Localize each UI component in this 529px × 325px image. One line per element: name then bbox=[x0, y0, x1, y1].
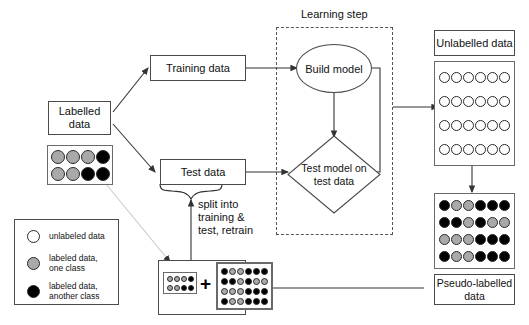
data-point-white bbox=[487, 144, 498, 155]
data-point-black bbox=[221, 268, 228, 275]
data-point-white bbox=[463, 96, 474, 107]
legend-item-0: unlabeled data bbox=[27, 230, 119, 243]
data-point-black bbox=[499, 234, 510, 245]
class-two-dot-icon bbox=[27, 285, 40, 298]
node-test-model-label: Test model on test data bbox=[287, 135, 381, 214]
data-point-white bbox=[475, 120, 486, 131]
node-training-data[interactable]: Training data bbox=[150, 55, 246, 81]
node-unlabelled-data[interactable]: Unlabelled data bbox=[434, 30, 515, 56]
data-point-gray bbox=[237, 268, 244, 275]
node-build-model[interactable]: Build model bbox=[296, 44, 372, 93]
grid-combined-large bbox=[216, 262, 273, 310]
legend-item-2: labeled data, another class bbox=[27, 281, 119, 301]
diagram-canvas: Learning step bbox=[0, 0, 529, 325]
data-point-black bbox=[487, 200, 498, 211]
data-point-black bbox=[181, 285, 187, 291]
data-point-white bbox=[475, 144, 486, 155]
data-point-gray bbox=[463, 217, 474, 228]
data-point-gray bbox=[66, 167, 80, 181]
data-point-black bbox=[245, 298, 252, 305]
data-point-black bbox=[499, 200, 510, 211]
grid-unlabelled-pool bbox=[434, 61, 515, 166]
data-point-white bbox=[439, 96, 450, 107]
grid-pseudo-labelled-pool bbox=[434, 193, 515, 269]
legend-item-1-label: labeled data, one class bbox=[49, 253, 98, 273]
node-test-model[interactable]: Test model on test data bbox=[287, 135, 381, 214]
data-point-white bbox=[463, 120, 474, 131]
data-point-gray bbox=[237, 278, 244, 285]
data-point-gray bbox=[181, 276, 187, 282]
data-point-black bbox=[475, 234, 486, 245]
data-point-gray bbox=[439, 234, 450, 245]
data-point-white bbox=[439, 120, 450, 131]
node-test-data[interactable]: Test data bbox=[160, 159, 246, 185]
data-point-gray bbox=[237, 288, 244, 295]
data-point-white bbox=[499, 120, 510, 131]
data-point-black bbox=[229, 278, 236, 285]
data-point-white bbox=[451, 72, 462, 83]
data-point-white bbox=[463, 72, 474, 83]
data-point-white bbox=[487, 72, 498, 83]
data-point-black bbox=[253, 268, 260, 275]
class-one-dot-icon bbox=[27, 257, 40, 270]
data-point-white bbox=[451, 144, 462, 155]
data-point-black bbox=[487, 234, 498, 245]
data-point-gray bbox=[167, 285, 173, 291]
data-point-black bbox=[253, 298, 260, 305]
data-point-gray bbox=[451, 200, 462, 211]
data-point-gray bbox=[66, 150, 80, 164]
data-point-black bbox=[261, 298, 268, 305]
data-point-gray bbox=[237, 298, 244, 305]
data-point-gray bbox=[167, 276, 173, 282]
data-point-black bbox=[475, 200, 486, 211]
node-pseudo-labelled-data[interactable]: Pseudo-labelled data bbox=[434, 274, 515, 305]
data-point-white bbox=[439, 72, 450, 83]
legend-item-1: labeled data, one class bbox=[27, 253, 119, 273]
data-point-white bbox=[487, 96, 498, 107]
data-point-black bbox=[439, 251, 450, 262]
data-point-white bbox=[499, 144, 510, 155]
data-point-black bbox=[475, 251, 486, 262]
data-point-black bbox=[81, 167, 95, 181]
data-point-gray bbox=[229, 298, 236, 305]
data-point-black bbox=[221, 298, 228, 305]
data-point-black bbox=[261, 288, 268, 295]
legend-item-2-label: labeled data, another class bbox=[49, 281, 100, 301]
data-point-black bbox=[261, 268, 268, 275]
split-retrain-note: split into training & test, retrain bbox=[198, 198, 253, 238]
data-point-gray bbox=[499, 217, 510, 228]
plus-sign: + bbox=[200, 274, 211, 293]
grid-combined-small bbox=[163, 272, 197, 294]
data-point-black bbox=[451, 217, 462, 228]
data-point-gray bbox=[174, 276, 180, 282]
data-point-gray bbox=[51, 150, 65, 164]
data-point-black bbox=[188, 285, 194, 291]
data-point-gray bbox=[229, 268, 236, 275]
data-point-gray bbox=[463, 234, 474, 245]
data-point-white bbox=[487, 120, 498, 131]
data-point-gray bbox=[451, 251, 462, 262]
data-point-white bbox=[475, 72, 486, 83]
data-point-black bbox=[245, 268, 252, 275]
data-point-gray bbox=[221, 288, 228, 295]
data-point-black bbox=[96, 150, 110, 164]
data-point-black bbox=[221, 278, 228, 285]
node-labelled-data[interactable]: Labelled data bbox=[48, 101, 111, 135]
data-point-white bbox=[451, 96, 462, 107]
data-point-gray bbox=[463, 200, 474, 211]
data-point-black bbox=[487, 251, 498, 262]
data-point-black bbox=[245, 278, 252, 285]
data-point-gray bbox=[81, 150, 95, 164]
data-point-gray bbox=[261, 278, 268, 285]
data-point-black bbox=[499, 251, 510, 262]
data-point-white bbox=[439, 144, 450, 155]
unlabeled-dot-icon bbox=[27, 230, 40, 243]
data-point-gray bbox=[174, 285, 180, 291]
data-point-black bbox=[253, 288, 260, 295]
grid-labelled-sample bbox=[47, 145, 113, 185]
data-point-white bbox=[475, 96, 486, 107]
data-point-gray bbox=[51, 167, 65, 181]
data-point-gray bbox=[463, 251, 474, 262]
data-point-white bbox=[463, 144, 474, 155]
data-point-black bbox=[245, 288, 252, 295]
